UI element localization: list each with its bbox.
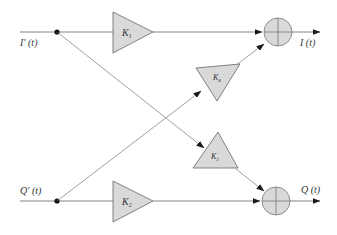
gain-block-k4: K4 [196, 64, 240, 101]
summer-i [264, 18, 292, 46]
gain-block-k1: K1 [113, 12, 153, 53]
gain-block-k3: K3 [193, 132, 238, 168]
input-label-q-prime: Q′ (t) [20, 185, 42, 197]
summer-q [262, 187, 290, 215]
output-label-q: Q (t) [301, 184, 321, 196]
block-diagram: I′ (t) K1 I (t) Q′ (t) K2 Q (t) K4 [0, 0, 337, 235]
gain-block-k2: K2 [113, 181, 153, 222]
input-label-i-prime: I′ (t) [19, 37, 38, 49]
output-label-i: I (t) [299, 37, 316, 49]
